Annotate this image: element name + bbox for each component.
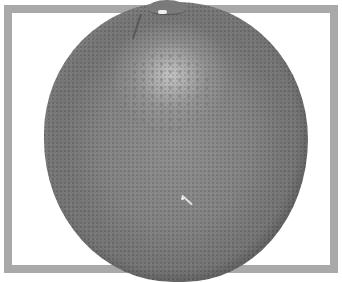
peel-scratch-spot — [181, 197, 184, 200]
fruit-picture: Grapefruit Grayscale photograph — [0, 0, 342, 282]
stem-highlight — [158, 10, 167, 14]
image-style: Grayscale photograph — [0, 0, 1, 1]
stem-end — [148, 0, 186, 15]
image-subject: Grapefruit — [0, 0, 1, 1]
grapefruit — [44, 2, 308, 282]
peel-texture — [121, 52, 211, 132]
